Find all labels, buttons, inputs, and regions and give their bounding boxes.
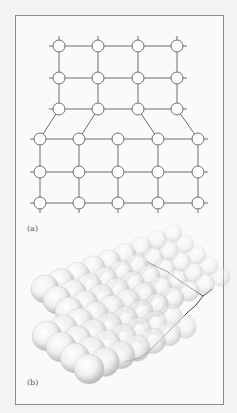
- atom: [73, 197, 85, 209]
- atom: [73, 166, 85, 178]
- panel-label-b: (b): [27, 378, 38, 387]
- atom: [192, 133, 204, 145]
- atom: [92, 103, 104, 115]
- sphere-atom: [74, 354, 104, 384]
- atom: [53, 72, 65, 84]
- atom: [192, 166, 204, 178]
- lattice-diagram: [0, 0, 237, 413]
- atom: [171, 72, 183, 84]
- atom: [152, 197, 164, 209]
- panel-label-a: (a): [27, 224, 38, 233]
- atom: [92, 40, 104, 52]
- atom: [112, 166, 124, 178]
- atom: [53, 103, 65, 115]
- atom: [92, 72, 104, 84]
- atom: [53, 40, 65, 52]
- atom: [171, 103, 183, 115]
- atom: [192, 197, 204, 209]
- atom: [34, 133, 46, 145]
- atom: [152, 166, 164, 178]
- atom: [171, 40, 183, 52]
- atom: [112, 133, 124, 145]
- atom: [132, 72, 144, 84]
- atom: [73, 133, 85, 145]
- atom: [132, 103, 144, 115]
- atom: [34, 166, 46, 178]
- atom: [112, 197, 124, 209]
- atom: [152, 133, 164, 145]
- atom: [132, 40, 144, 52]
- atom: [34, 197, 46, 209]
